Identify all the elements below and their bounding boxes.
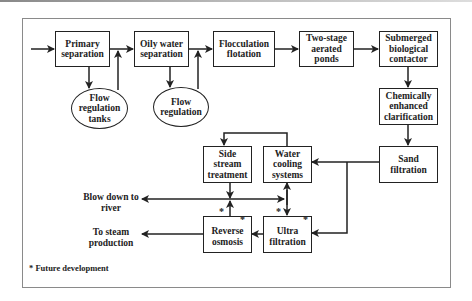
footnote-future-development: * Future development [29,263,109,273]
node-submerged-biological-contactor: Submerged biological contactor [379,31,438,67]
future-marker-uf-return: * [276,206,281,217]
node-primary-separation: Primary separation [55,31,110,67]
node-flow-regulation: Flow regulation [153,87,209,127]
output-to-steam-production: To steam production [80,227,142,249]
output-blow-down-to-river: Blow down to river [82,192,140,214]
node-flow-regulation-tanks: Flow regulation tanks [71,88,128,129]
node-flocculation-flotation: Flocculation flotation [213,31,275,67]
node-oily-water-separation: Oily water separation [134,31,189,67]
future-marker-ro-return: * [219,206,224,217]
node-two-stage-aerated-ponds: Two-stage aerated ponds [299,31,354,67]
node-water-cooling-systems: Water cooling systems [263,146,312,183]
node-side-stream-treatment: Side stream treatment [203,146,252,183]
future-marker-ultra-filtration: * [303,214,308,225]
node-sand-filtration: Sand filtration [379,146,438,183]
node-chemically-enhanced-clarification: Chemically enhanced clarification [379,88,438,125]
future-marker-reverse-osmosis: * [240,214,245,225]
